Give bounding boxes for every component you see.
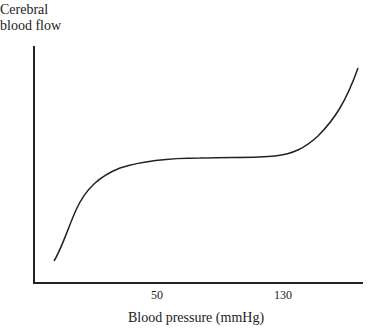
autoregulation-curve	[54, 68, 358, 261]
x-tick-50: 50	[151, 288, 163, 303]
chart-plot-area	[0, 0, 372, 334]
x-axis-label: Blood pressure (mmHg)	[0, 310, 372, 326]
x-tick-130: 130	[274, 288, 292, 303]
